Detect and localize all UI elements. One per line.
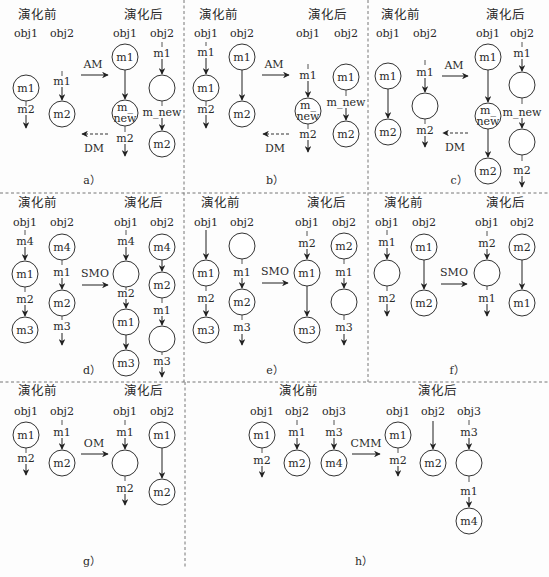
node-label: m3 [197,324,214,337]
reverse-operation-label: DM [265,142,285,155]
object-label: obj1 [194,216,218,229]
message-label: m_new [327,96,367,109]
object-label: obj2 [150,27,174,40]
reverse-operation-label: DM [84,142,104,155]
message-label: m1 [153,47,170,60]
node-label: m2 [153,486,170,499]
method-node: m2 [331,233,357,259]
object-label: obj1 [250,405,274,418]
object-label: obj1 [375,216,399,229]
message-label: m1 [53,426,70,439]
header-after: 演化后 [308,7,347,22]
node-label: m4 [325,457,342,470]
node-label: m1 [337,71,354,84]
method-node [229,233,255,259]
method-node [331,289,357,315]
header-after: 演化后 [124,383,163,398]
node-label: m1 [479,51,496,64]
message-label: m1 [197,46,214,59]
object-label: obj1 [194,27,218,40]
message-label: m2 [253,454,270,467]
node-circle [474,260,500,286]
method-node [149,75,175,101]
operation-label: CMM [351,437,382,450]
object-label: obj1 [476,27,500,40]
node-circle [113,261,139,287]
panel-caption: d） [83,364,101,377]
panels: 演化前演化后m1m2m1m_newm2obj1obj2obj1obj2m2m1m… [12,7,542,568]
message-label: m2 [197,292,214,305]
object-label: obj1 [14,27,38,40]
node-circle [112,450,138,476]
node-label: m1 [197,267,214,280]
node-label: m3 [117,357,134,370]
method-node: m3 [294,317,320,343]
node-label: m4 [153,241,170,254]
node-label: m1 [513,297,530,310]
method-node: m1 [112,44,138,70]
node-label: m1 [253,429,270,442]
node-label: m2 [479,165,496,178]
message-label: m4 [16,235,33,248]
object-label: obj1 [113,27,137,40]
object-label: obj2 [150,216,174,229]
header-after: 演化后 [418,383,457,398]
method-node: m4 [149,234,175,260]
panel-g: 演化前演化后m1m2m1m2obj1obj2obj1obj2m2m1m1m2OM… [13,383,175,568]
panel-h: 演化前演化后m1m2m4m1m2m4obj1obj2obj3obj1obj2ob… [249,383,482,568]
panel-caption: f） [449,364,464,377]
node-circle [229,233,255,259]
method-node: m1 [249,422,275,448]
node-label: m2 [153,279,170,292]
object-label: obj2 [230,27,254,40]
node-circle [374,260,400,286]
object-label: obj1 [296,27,320,40]
method-node: m4 [49,234,75,260]
reverse-operation-label: DM [445,141,465,154]
method-node: m_new [112,100,138,126]
node-label: m1 [415,241,432,254]
method-node: m2 [229,101,255,127]
message-label: m1 [288,426,305,439]
message-label: m2 [416,124,433,137]
node-label: m2 [288,457,305,470]
method-node [509,72,535,98]
method-node: m1 [375,63,401,89]
message-label: m2 [17,452,34,465]
header-before: 演化前 [199,7,238,22]
object-label: obj2 [332,216,356,229]
node-label: m1 [379,70,396,83]
method-node [456,450,482,476]
method-node: m2 [49,450,75,476]
header-before: 演化前 [279,383,318,398]
object-label: obj2 [510,216,534,229]
method-node: m3 [113,350,139,376]
header-before: 演化前 [384,195,423,210]
object-label: obj1 [475,216,499,229]
method-node [113,261,139,287]
operation-label: AM [443,59,463,72]
method-node: m2 [284,450,310,476]
node-label: m1 [389,429,406,442]
message-label: m2 [17,103,34,116]
method-node: m2 [229,289,255,315]
message-label: m1 [116,426,133,439]
message-label: m1 [378,236,395,249]
message-label: m4 [117,235,134,248]
object-label: obj1 [113,405,137,418]
node-label: m2 [513,241,530,254]
method-node [112,450,138,476]
node-label: m1 [298,267,315,280]
panel-a: 演化前演化后m1m2m1m_newm2obj1obj2obj1obj2m2m1m… [13,7,182,187]
method-node: m1 [193,260,219,286]
node-label: m1 [233,51,250,64]
method-node: m1 [13,75,39,101]
message-label: m3 [233,321,250,334]
method-node: m4 [456,508,482,534]
message-label: m3 [325,426,342,439]
method-node [412,93,438,119]
panel-caption: a） [83,174,101,187]
node-label: m4 [53,241,70,254]
object-label: obj2 [50,27,74,40]
node-circle [509,72,535,98]
